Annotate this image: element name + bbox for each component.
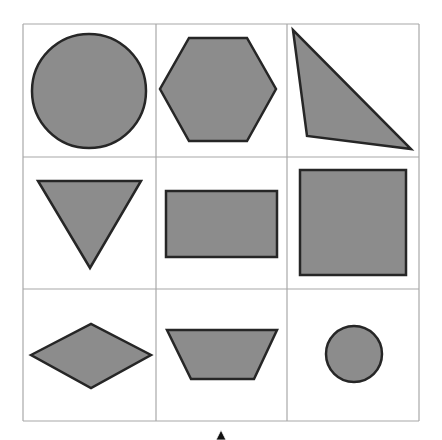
shape-circle-large: [32, 34, 146, 148]
shape-square: [300, 170, 406, 275]
shape-grid-diagram: [0, 0, 442, 440]
shape-rectangle: [166, 191, 277, 257]
shape-circle-small: [326, 326, 382, 382]
